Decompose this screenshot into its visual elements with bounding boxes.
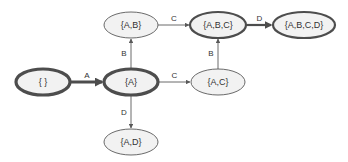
node-label: {A,B,C} — [203, 20, 233, 30]
edge-label: D — [121, 108, 127, 117]
node-empty: { } — [16, 69, 70, 95]
edge-label: C — [171, 14, 177, 23]
node-label: {A,C} — [207, 77, 228, 87]
edge-label: D — [257, 14, 263, 23]
edge-label: B — [208, 49, 213, 58]
node-AB: {A,B} — [104, 12, 158, 38]
edge-label: C — [172, 71, 178, 80]
node-A: {A} — [104, 69, 158, 95]
node-ABCD: {A,B,C,D} — [273, 12, 335, 38]
node-label: {A,D} — [120, 137, 141, 147]
nodes: { }{A}{A,B}{A,B,C}{A,B,C,D}{A,C}{A,D} — [16, 12, 335, 155]
state-diagram: ABCDCBD { }{A}{A,B}{A,B,C}{A,B,C,D}{A,C}… — [0, 0, 348, 162]
edge-label: B — [121, 49, 126, 58]
node-label: {A} — [125, 77, 137, 87]
node-AC: {A,C} — [191, 69, 245, 95]
node-ABC: {A,B,C} — [190, 12, 246, 38]
node-label: {A,B} — [121, 20, 142, 30]
node-label: { } — [39, 77, 48, 87]
node-label: {A,B,C,D} — [285, 20, 324, 30]
node-AD: {A,D} — [104, 129, 158, 155]
edge-label: A — [84, 71, 90, 80]
